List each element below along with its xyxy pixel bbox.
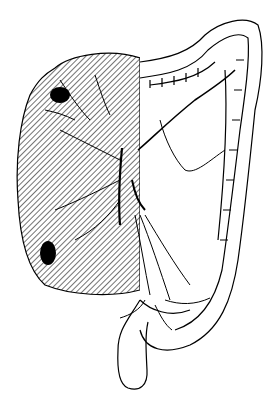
- hatched-resection-region: [17, 53, 140, 294]
- colon-illustration: [0, 0, 276, 400]
- tumor-upper: [50, 87, 70, 103]
- colon-diagram: [0, 0, 276, 400]
- tumor-lower: [40, 241, 56, 265]
